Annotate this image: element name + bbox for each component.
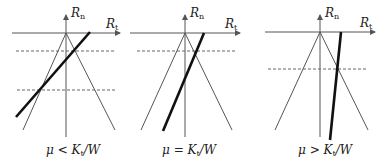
panel-right (265, 15, 375, 140)
friction-diagram (0, 0, 388, 166)
caption-middle: μ = Kt/W (162, 143, 216, 158)
cone-right-edge (320, 32, 368, 130)
axis-label-rn: Rn (71, 6, 85, 21)
axis-label-rn: Rn (190, 6, 204, 21)
cone-right-edge (66, 33, 115, 130)
panel-middle (130, 15, 240, 137)
panel-left (12, 15, 120, 137)
axis-label-rt: Rt (360, 16, 372, 31)
cone-left-edge (141, 33, 185, 130)
axis-label-rt: Rt (106, 17, 118, 32)
cone-left-edge (23, 33, 66, 130)
axis-label-rt: Rt (225, 17, 237, 32)
thick-force-line (16, 32, 90, 117)
thick-force-line (163, 33, 204, 131)
axis-label-rn: Rn (325, 6, 339, 21)
thick-force-line (330, 32, 341, 140)
cone-left-edge (275, 32, 320, 130)
caption-left: μ < Kt/W (46, 143, 100, 158)
caption-right: μ > Kt/W (298, 143, 352, 158)
cone-right-edge (185, 33, 232, 130)
